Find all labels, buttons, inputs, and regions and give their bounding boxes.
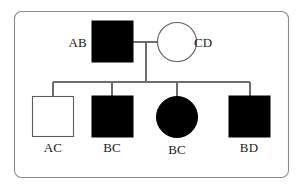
label-child-4: BD (240, 140, 258, 155)
label-father: AB (69, 35, 88, 50)
symbol-child-4-affected-male (229, 96, 270, 137)
pedigree-diagram: AB CD AC BC BC BD (0, 0, 302, 188)
label-child-1: AC (44, 140, 62, 155)
pedigree-canvas: AB CD AC BC BC BD (0, 0, 302, 188)
label-child-2: BC (103, 140, 121, 155)
label-mother: CD (194, 35, 212, 50)
symbol-child-2-affected-male (92, 96, 133, 137)
symbol-father-affected-male (92, 21, 133, 62)
label-child-3: BC (168, 142, 186, 157)
symbol-child-1-unaffected-male (33, 97, 74, 137)
symbol-child-3-affected-female (157, 97, 198, 138)
symbol-mother-unaffected-female (158, 23, 197, 62)
